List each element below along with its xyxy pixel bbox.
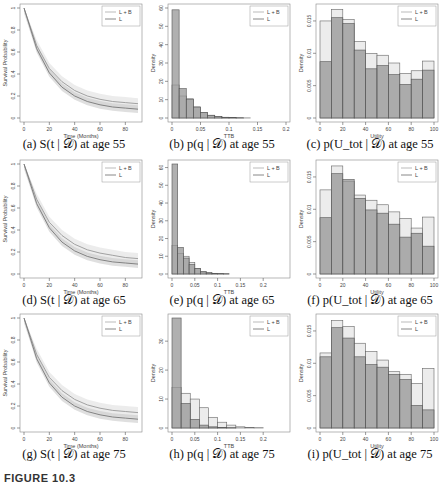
svg-text:20: 20 — [47, 126, 53, 132]
svg-text:L + B: L + B — [119, 165, 132, 171]
caption-i: (i) p(U_tot | 𝒟) at age 75 — [296, 447, 444, 462]
panel-a: 02040608000.20.40.60.81Time (Months)Surv… — [0, 0, 148, 155]
svg-text:60: 60 — [97, 436, 103, 442]
svg-text:50: 50 — [158, 23, 164, 29]
panel-f: 02040608010000.0050.010.015UtilityDensit… — [296, 156, 444, 311]
caption-a: (a) S(t | 𝒟) at age 55 — [0, 137, 148, 152]
svg-text:60: 60 — [158, 5, 164, 11]
svg-text:0: 0 — [23, 282, 26, 288]
svg-text:0: 0 — [10, 426, 16, 429]
svg-text:20: 20 — [340, 282, 346, 288]
svg-text:Density: Density — [150, 364, 156, 383]
svg-text:80: 80 — [408, 282, 414, 288]
svg-text:80: 80 — [408, 126, 414, 132]
svg-text:0.4: 0.4 — [10, 70, 16, 77]
svg-text:0.4: 0.4 — [10, 380, 16, 387]
panel-i: 02040608010000.0050.010.015UtilityDensit… — [296, 310, 444, 465]
svg-text:0: 0 — [158, 272, 164, 275]
svg-text:0.015: 0.015 — [306, 14, 312, 27]
svg-text:0.2: 0.2 — [10, 92, 16, 99]
svg-text:40: 40 — [363, 282, 369, 288]
svg-text:0: 0 — [10, 116, 16, 119]
svg-text:30: 30 — [158, 218, 164, 224]
svg-text:60: 60 — [386, 282, 392, 288]
svg-text:20: 20 — [47, 436, 53, 442]
svg-text:0.6: 0.6 — [10, 48, 16, 55]
caption-g: (g) S(t | 𝒟) at age 75 — [0, 447, 148, 462]
svg-text:100: 100 — [430, 436, 439, 442]
caption-f: (f) p(U_tot | 𝒟) at age 65 — [296, 293, 444, 308]
svg-text:0.4: 0.4 — [10, 226, 16, 233]
svg-text:0.005: 0.005 — [306, 389, 312, 402]
svg-text:Survival Probability: Survival Probability — [2, 39, 8, 86]
plot-a: 02040608000.20.40.60.81Time (Months)Surv… — [2, 4, 142, 139]
svg-text:0.05: 0.05 — [190, 282, 200, 288]
svg-text:20: 20 — [47, 282, 53, 288]
svg-text:0.15: 0.15 — [253, 126, 263, 132]
svg-text:100: 100 — [430, 282, 439, 288]
svg-text:0: 0 — [10, 272, 16, 275]
svg-text:10: 10 — [158, 253, 164, 259]
svg-text:L: L — [119, 16, 122, 22]
svg-text:L + B: L + B — [267, 165, 280, 171]
svg-text:0.05: 0.05 — [196, 126, 206, 132]
legend: L + BL — [102, 316, 140, 336]
svg-text:40: 40 — [158, 42, 164, 48]
svg-text:0.2: 0.2 — [10, 248, 16, 255]
svg-text:40: 40 — [158, 200, 164, 206]
svg-text:10: 10 — [158, 396, 164, 402]
svg-text:0: 0 — [306, 426, 312, 429]
plot-h: 00.050.10.150.20102030TTBDensityL + BL — [150, 314, 290, 449]
svg-text:0.1: 0.1 — [226, 126, 233, 132]
plot-d: 02040608000.20.40.60.81Time (Months)Surv… — [2, 160, 142, 295]
svg-text:0.8: 0.8 — [10, 182, 16, 189]
svg-text:60: 60 — [97, 282, 103, 288]
svg-text:L: L — [119, 172, 122, 178]
svg-text:0.005: 0.005 — [306, 235, 312, 248]
plot-b: 00.050.10.150.20102030405060TTBDensityL … — [150, 4, 290, 139]
legend: L + BL — [398, 316, 436, 336]
svg-text:0.1: 0.1 — [214, 282, 221, 288]
legend: L + BL — [250, 316, 288, 336]
plot-e: 00.050.10.150.20102030405060TTBDensityL … — [150, 160, 290, 295]
svg-text:L: L — [415, 326, 418, 332]
svg-text:Density: Density — [298, 54, 304, 73]
panel-c: 02040608010000.0050.010.015UtilityDensit… — [296, 0, 444, 155]
svg-text:L + B: L + B — [415, 165, 428, 171]
svg-text:60: 60 — [97, 126, 103, 132]
svg-text:0.01: 0.01 — [306, 204, 312, 214]
legend: L + BL — [102, 162, 140, 182]
svg-text:L + B: L + B — [415, 319, 428, 325]
svg-text:80: 80 — [123, 282, 129, 288]
legend: L + BL — [250, 6, 288, 26]
svg-text:0: 0 — [171, 126, 174, 132]
svg-text:L: L — [267, 16, 270, 22]
caption-c: (c) p(U_tot | 𝒟) at age 55 — [296, 137, 444, 152]
legend: L + BL — [398, 6, 436, 26]
svg-text:L: L — [119, 326, 122, 332]
svg-text:40: 40 — [72, 126, 78, 132]
svg-text:0.6: 0.6 — [10, 358, 16, 365]
svg-text:1: 1 — [10, 162, 16, 165]
svg-text:40: 40 — [72, 282, 78, 288]
svg-text:L: L — [415, 172, 418, 178]
svg-text:Density: Density — [298, 210, 304, 229]
svg-text:0.8: 0.8 — [10, 26, 16, 33]
svg-text:0.8: 0.8 — [10, 336, 16, 343]
svg-text:80: 80 — [123, 436, 129, 442]
svg-text:50: 50 — [158, 182, 164, 188]
svg-text:0.6: 0.6 — [10, 204, 16, 211]
plot-f: 02040608010000.0050.010.015UtilityDensit… — [298, 160, 438, 295]
panel-d: 02040608000.20.40.60.81Time (Months)Surv… — [0, 156, 148, 311]
svg-text:L: L — [415, 16, 418, 22]
svg-text:Density: Density — [150, 210, 156, 229]
svg-text:0.15: 0.15 — [236, 436, 246, 442]
svg-text:0: 0 — [23, 436, 26, 442]
svg-text:0: 0 — [319, 436, 322, 442]
svg-text:10: 10 — [158, 97, 164, 103]
legend: L + BL — [398, 162, 436, 182]
plot-c: 02040608010000.0050.010.015UtilityDensit… — [298, 4, 438, 139]
svg-text:40: 40 — [363, 126, 369, 132]
svg-text:L + B: L + B — [119, 9, 132, 15]
svg-text:Density: Density — [298, 364, 304, 383]
